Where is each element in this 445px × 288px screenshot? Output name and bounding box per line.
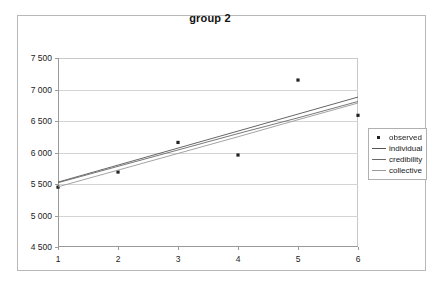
x-axis-tick-mark — [238, 247, 239, 250]
y-axis-tick-mark — [55, 216, 58, 217]
x-axis-tick-mark — [178, 247, 179, 250]
data-point-marker — [296, 78, 299, 81]
legend-key-line-icon — [372, 155, 386, 164]
plot-area — [58, 58, 358, 247]
y-axis-tick-mark — [55, 184, 58, 185]
legend-item-credibility[interactable]: credibility — [372, 154, 422, 165]
y-axis-tick-label: 4 500 — [6, 242, 52, 252]
series-line-credibility — [58, 101, 358, 182]
y-axis-tick-label: 7 500 — [6, 53, 52, 63]
legend-key-line-icon — [372, 144, 386, 153]
x-axis-tick-mark — [358, 247, 359, 250]
data-point-marker — [356, 114, 359, 117]
x-axis-tick-mark — [298, 247, 299, 250]
y-axis-tick-label: 6 000 — [6, 148, 52, 158]
y-axis-tick-label: 7 000 — [6, 85, 52, 95]
x-axis-tick-label: 1 — [56, 254, 61, 264]
y-axis-tick-mark — [55, 90, 58, 91]
series-line-individual — [58, 97, 358, 182]
legend-key-line-icon — [372, 166, 386, 175]
chart-legend[interactable]: observed individual credibility collecti… — [368, 128, 427, 180]
chart-screenshot: group 2 7 5007 0006 5006 0005 5005 0004 … — [0, 0, 445, 288]
legend-label: collective — [389, 166, 422, 175]
legend-item-observed[interactable]: observed — [372, 132, 422, 143]
legend-label: observed — [389, 133, 422, 142]
y-axis-tick-label: 6 500 — [6, 116, 52, 126]
series-layer — [58, 58, 358, 247]
y-axis-tick-mark — [55, 58, 58, 59]
legend-label: individual — [389, 144, 422, 153]
x-axis-tick-label: 2 — [116, 254, 121, 264]
x-axis-tick-mark — [118, 247, 119, 250]
legend-item-individual[interactable]: individual — [372, 143, 422, 154]
series-line-collective — [58, 103, 358, 187]
x-axis-tick-mark — [58, 247, 59, 250]
data-point-marker — [56, 186, 59, 189]
y-axis-tick-label: 5 000 — [6, 211, 52, 221]
legend-label: credibility — [389, 155, 422, 164]
legend-key-marker-icon — [372, 133, 386, 142]
y-axis-tick-mark — [55, 121, 58, 122]
y-axis-tick-mark — [55, 153, 58, 154]
x-axis-tick-label: 6 — [356, 254, 361, 264]
x-axis-tick-label: 5 — [296, 254, 301, 264]
x-axis-tick-label: 3 — [176, 254, 181, 264]
legend-item-collective[interactable]: collective — [372, 165, 422, 176]
data-point-marker — [236, 153, 239, 156]
x-axis-tick-label: 4 — [236, 254, 241, 264]
y-axis-tick-label: 5 500 — [6, 179, 52, 189]
data-point-marker — [176, 141, 179, 144]
chart-title: group 2 — [60, 12, 360, 24]
